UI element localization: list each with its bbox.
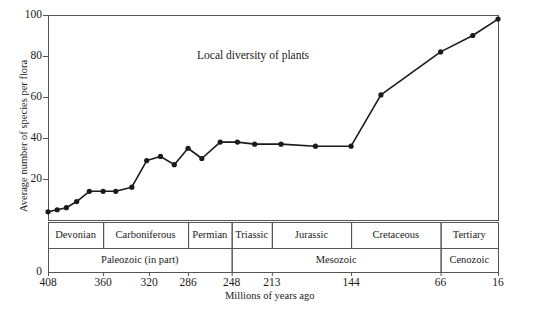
series-data-point — [45, 209, 50, 214]
x-tick-label: 16 — [478, 276, 518, 288]
x-tick-label: 66 — [421, 276, 461, 288]
series-data-point — [199, 156, 204, 161]
series-data-point — [313, 144, 318, 149]
series-data-point — [185, 146, 190, 151]
era-band-label: Paleozoic (in part) — [48, 254, 232, 265]
series-data-point — [470, 33, 475, 38]
series-data-point — [101, 189, 106, 194]
period-band-label: Jurassic — [272, 229, 351, 240]
series-data-point — [438, 49, 443, 54]
period-band-label: Devonian — [48, 229, 103, 240]
series-data-point — [144, 158, 149, 163]
period-band-label: Tertiary — [441, 229, 498, 240]
series-line-local-diversity-of-plants — [48, 19, 498, 212]
y-tick-label: 60 — [6, 90, 42, 102]
series-data-point — [252, 142, 257, 147]
x-tick-label: 213 — [252, 276, 292, 288]
chart-canvas — [0, 0, 537, 317]
series-data-point — [218, 140, 223, 145]
series-data-point — [129, 185, 134, 190]
series-data-point — [278, 142, 283, 147]
x-tick-label: 360 — [83, 276, 123, 288]
x-tick-label: 144 — [331, 276, 371, 288]
period-band-label: Triassic — [232, 229, 272, 240]
x-tick-label: 248 — [212, 276, 252, 288]
period-band-label: Cretaceous — [351, 229, 441, 240]
series-data-point — [87, 189, 92, 194]
series-data-point — [495, 17, 500, 22]
era-band-label: Cenozoic — [441, 254, 498, 265]
x-tick-label: 320 — [129, 276, 169, 288]
series-data-point — [64, 205, 69, 210]
series-data-point — [348, 144, 353, 149]
y-tick-label: 20 — [6, 172, 42, 184]
series-data-point — [113, 189, 118, 194]
diversity-chart: Average number of species per flora Loca… — [0, 0, 537, 317]
era-band-label: Mesozoic — [232, 254, 441, 265]
series-data-point — [158, 154, 163, 159]
x-tick-label: 408 — [28, 276, 68, 288]
y-tick-label: 80 — [6, 49, 42, 61]
series-data-point — [235, 140, 240, 145]
x-tick-label: 286 — [168, 276, 208, 288]
period-band-label: Permian — [188, 229, 232, 240]
series-data-point — [74, 199, 79, 204]
y-tick-label: 40 — [6, 131, 42, 143]
series-data-point — [378, 92, 383, 97]
period-band-label: Carboniferous — [103, 229, 188, 240]
series-data-point — [172, 162, 177, 167]
y-tick-label: 100 — [6, 8, 42, 20]
series-data-point — [55, 207, 60, 212]
